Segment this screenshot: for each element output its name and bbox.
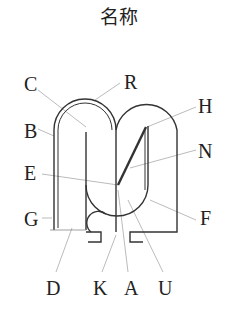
label-b: B [24,120,37,142]
leader-a [118,190,128,272]
left-foot [86,232,101,242]
label-a: A [124,277,139,299]
label-e: E [24,162,36,184]
leader-r [95,83,120,100]
label-c: C [24,73,37,95]
label-k: K [93,277,108,299]
label-n: N [198,140,212,162]
label-u: U [158,277,173,299]
diagonal-blade [118,127,146,185]
label-g: G [24,208,38,230]
leader-d [56,228,72,272]
label-d: D [46,277,60,299]
leader-n [130,150,196,168]
leader-lines [38,83,196,272]
leader-k [102,235,116,272]
leader-b [38,129,54,136]
label-h: H [198,95,212,117]
bottom-arc [87,211,106,232]
right-foot [130,232,143,242]
left-arch-outer [54,99,116,232]
leader-f [150,200,196,220]
left-arch-inner [58,103,112,228]
part-outline [50,99,177,242]
label-f: F [200,207,211,229]
component-diagram: C R H B N E F G D K A U [0,0,237,312]
label-r: R [124,71,138,93]
